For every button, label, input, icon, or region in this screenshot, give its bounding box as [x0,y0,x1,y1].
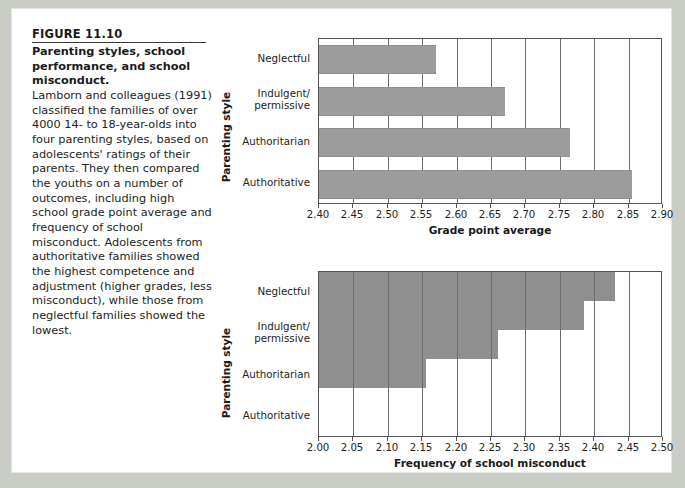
chart-grade-point-average: Parenting style NeglectfulIndulgent/ per… [218,25,662,249]
x-tick-label: 2.00 [307,442,330,453]
figure-card: FIGURE 11.10 Parenting styles, school pe… [12,9,671,472]
category-label: Authoritarian [242,369,310,381]
x-tick-label: 2.55 [410,209,433,220]
category-labels-bottom: NeglectfulIndulgent/ permissiveAuthorita… [230,271,314,437]
x-tick-label: 2.15 [410,442,433,453]
x-tick-label: 2.70 [513,209,536,220]
category-label: Authoritative [243,410,310,422]
tick-mark [593,437,594,441]
tick-mark [352,437,353,441]
plot-area-bottom [318,271,662,437]
x-tick-label: 2.75 [548,209,571,220]
tick-mark [559,204,560,208]
tick-mark [421,204,422,208]
figure-caption-body: Lamborn and colleagues (1991) classified… [32,89,214,338]
bar-authoritarian [319,330,498,359]
tick-mark [490,437,491,441]
bar-authoritative [319,359,426,388]
x-tick-label: 2.25 [479,442,502,453]
x-tick-label: 2.80 [582,209,605,220]
x-tick-label: 2.35 [548,442,571,453]
x-tick-label: 2.65 [479,209,502,220]
category-label: Indulgent/ permissive [254,321,310,345]
x-tick-label: 2.30 [513,442,536,453]
tick-mark [318,204,319,208]
tick-mark [628,437,629,441]
gridline [353,272,354,436]
gridline [525,272,526,436]
x-tick-label: 2.45 [341,209,364,220]
category-label: Neglectful [258,286,310,298]
bar-authoritative [319,170,632,199]
tick-mark [387,437,388,441]
tick-mark [662,204,663,208]
category-label: Neglectful [258,53,310,65]
x-tick-label: 2.10 [376,442,399,453]
bar-neglectful [319,45,436,74]
gridline [560,272,561,436]
tick-mark [524,437,525,441]
figure-caption-title: Parenting styles, school performance, an… [32,45,214,89]
tick-mark [490,204,491,208]
figure-number: FIGURE 11.10 [32,27,206,43]
category-label: Authoritarian [242,136,310,148]
plot-area-top [318,38,662,204]
x-axis-title-bottom: Frequency of school misconduct [318,457,662,469]
x-axis-title-top: Grade point average [318,224,662,236]
bar-indulgent-permissive [319,301,584,330]
tick-mark [318,437,319,441]
bar-indulgent-permissive [319,87,505,116]
x-tick-label: 2.60 [445,209,468,220]
tick-mark [352,204,353,208]
figure-caption: FIGURE 11.10 Parenting styles, school pe… [32,27,214,338]
gridline [629,272,630,436]
tick-mark [456,437,457,441]
tick-mark [524,204,525,208]
category-labels-top: NeglectfulIndulgent/ permissiveAuthorita… [230,38,314,204]
tick-mark [456,204,457,208]
x-tick-label: 2.05 [341,442,364,453]
tick-mark [593,204,594,208]
x-tick-label: 2.45 [617,442,640,453]
tick-mark [628,204,629,208]
x-tick-label: 2.50 [376,209,399,220]
bar-authoritarian [319,128,570,157]
x-tick-label: 2.50 [651,442,674,453]
gridline [457,272,458,436]
tick-mark [559,437,560,441]
category-label: Indulgent/ permissive [254,88,310,112]
x-tick-label: 2.20 [445,442,468,453]
x-tick-label: 2.40 [582,442,605,453]
category-label: Authoritative [243,177,310,189]
x-tick-label: 2.40 [307,209,330,220]
gridline [491,272,492,436]
gridline [594,272,595,436]
chart-frequency-of-school-misconduct: Parenting style NeglectfulIndulgent/ per… [218,267,662,479]
x-tick-label: 2.90 [651,209,674,220]
gridline [388,272,389,436]
bar-neglectful [319,272,615,301]
gridline [422,272,423,436]
tick-mark [387,204,388,208]
x-tick-label: 2.85 [617,209,640,220]
tick-mark [662,437,663,441]
tick-mark [421,437,422,441]
